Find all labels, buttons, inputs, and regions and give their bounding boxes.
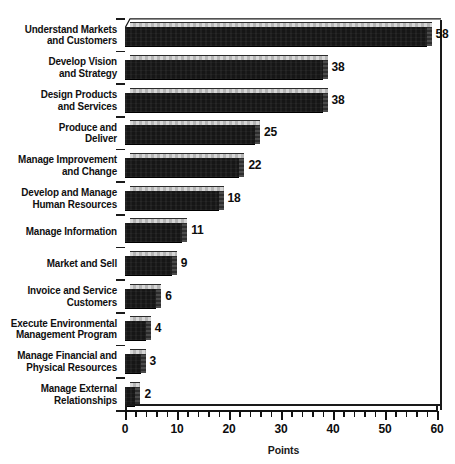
- x-axis: Points 0102030405060: [125, 404, 442, 464]
- category-label-line: and Change: [7, 166, 117, 178]
- chart-row: Manage Financial andPhysical Resources3: [0, 345, 455, 378]
- x-axis-tick-label: 0: [122, 422, 128, 436]
- category-label-line: Manage Improvement: [7, 154, 117, 166]
- category-label: Develop Visionand Strategy: [7, 56, 117, 79]
- bar-side-face: [135, 387, 140, 406]
- category-label: Produce andDeliver: [7, 122, 117, 145]
- x-axis-minor-tick: [406, 411, 408, 417]
- category-label-line: Deliver: [7, 133, 117, 145]
- category-label: Design Productsand Services: [7, 89, 117, 112]
- category-label-line: Market and Sell: [7, 258, 117, 270]
- bar-top-face: [130, 55, 328, 60]
- bar-value-label: 18: [228, 191, 241, 205]
- x-axis-minor-tick: [167, 411, 169, 417]
- bar[interactable]: [125, 120, 260, 144]
- bar[interactable]: [125, 186, 224, 210]
- chart-row: Manage Improvementand Change22: [0, 149, 455, 182]
- chart-row: Produce andDeliver25: [0, 116, 455, 149]
- x-axis-minor-tick: [198, 411, 200, 417]
- chart-row: Execute EnvironmentalManagement Program4: [0, 312, 455, 345]
- x-axis-minor-tick: [260, 411, 262, 417]
- x-axis-minor-tick: [187, 411, 189, 417]
- category-axis-tick: [116, 83, 125, 85]
- bar-front-face: [125, 223, 182, 243]
- axis-back-line: [130, 404, 442, 406]
- x-axis-minor-tick: [291, 411, 293, 417]
- bar[interactable]: [125, 88, 328, 112]
- category-label-line: Produce and: [7, 122, 117, 134]
- category-label-line: Manage Information: [7, 226, 117, 238]
- category-axis-tick: [116, 51, 125, 53]
- bar[interactable]: [125, 284, 161, 308]
- bar-front-face: [125, 27, 427, 47]
- category-label-line: and Strategy: [7, 68, 117, 80]
- x-axis-minor-tick: [135, 411, 137, 417]
- bar[interactable]: [125, 218, 187, 242]
- chart-row: Develop Visionand Strategy38: [0, 51, 455, 84]
- chart-row: Market and Sell9: [0, 247, 455, 280]
- bar-front-face: [125, 125, 255, 145]
- bar[interactable]: [125, 55, 328, 79]
- x-axis-tick-label: 50: [379, 422, 392, 436]
- x-axis-minor-tick: [364, 411, 366, 417]
- category-label-line: Human Resources: [7, 199, 117, 211]
- x-axis-minor-tick: [354, 411, 356, 417]
- category-label: Execute EnvironmentalManagement Program: [7, 318, 117, 341]
- x-axis-tick-label: 60: [431, 422, 444, 436]
- x-axis-tick-label: 20: [223, 422, 236, 436]
- category-label: Understand Marketsand Customers: [7, 24, 117, 47]
- chart-row: Invoice and ServiceCustomers6: [0, 279, 455, 312]
- x-axis-minor-tick: [239, 411, 241, 417]
- bar-value-label: 4: [155, 321, 161, 335]
- x-axis-tick-label: 40: [327, 422, 340, 436]
- x-axis-minor-tick: [219, 411, 221, 417]
- bar[interactable]: [125, 153, 244, 177]
- x-axis-major-tick: [177, 411, 179, 420]
- bar[interactable]: [125, 382, 140, 406]
- category-axis-tick: [116, 279, 125, 281]
- bar-side-face: [427, 27, 432, 46]
- category-axis-tick: [116, 18, 125, 20]
- category-axis-tick: [116, 345, 125, 347]
- bar-side-face: [156, 289, 161, 308]
- category-axis-tick: [116, 247, 125, 249]
- bar-side-face: [146, 321, 151, 340]
- category-axis-tick: [116, 410, 125, 412]
- x-axis-major-tick: [125, 411, 127, 420]
- category-label-line: Execute Environmental: [7, 318, 117, 330]
- bar-top-face: [130, 88, 328, 93]
- category-label-line: Develop Vision: [7, 56, 117, 68]
- bar[interactable]: [125, 349, 146, 373]
- x-axis-minor-tick: [208, 411, 210, 417]
- category-label-line: Physical Resources: [7, 362, 117, 374]
- bar-top-face: [130, 218, 187, 223]
- bar-chart: Understand Marketsand Customers58Develop…: [0, 0, 455, 464]
- bar-top-face: [130, 153, 244, 158]
- bar-value-label: 3: [150, 354, 156, 368]
- category-label-line: Understand Markets: [7, 24, 117, 36]
- x-axis-major-tick: [437, 411, 439, 420]
- bar-top-face: [130, 186, 224, 191]
- category-label-line: and Customers: [7, 35, 117, 47]
- category-axis-tick: [116, 181, 125, 183]
- x-axis-major-tick: [333, 411, 335, 420]
- x-axis-tick-label: 30: [275, 422, 288, 436]
- bar-side-face: [255, 125, 260, 144]
- x-axis-major-tick: [281, 411, 283, 420]
- bar-top-face: [130, 251, 177, 256]
- x-axis-major-tick: [229, 411, 231, 420]
- category-label-line: and Services: [7, 101, 117, 113]
- bar[interactable]: [125, 22, 432, 46]
- category-label-line: Relationships: [7, 395, 117, 407]
- category-label-line: Manage Financial and: [7, 350, 117, 362]
- bar-side-face: [172, 256, 177, 275]
- bar-top-face: [130, 22, 432, 27]
- category-label: Develop and ManageHuman Resources: [7, 187, 117, 210]
- bar-front-face: [125, 354, 141, 374]
- bar[interactable]: [125, 251, 177, 275]
- category-label-line: Management Program: [7, 329, 117, 341]
- category-axis-tick: [116, 214, 125, 216]
- category-axis-tick: [116, 149, 125, 151]
- bar[interactable]: [125, 316, 151, 340]
- bar-value-label: 2: [144, 387, 150, 401]
